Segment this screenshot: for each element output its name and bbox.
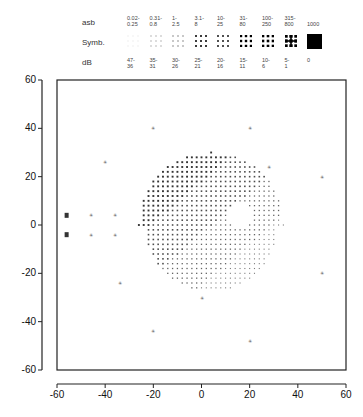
svg-text:✳: ✳: [320, 270, 324, 276]
svg-text:✳: ✳: [320, 174, 324, 180]
y-tick-label: -60: [22, 364, 36, 375]
x-tick-label: 60: [338, 389, 354, 400]
y-tick-label: 20: [25, 171, 36, 182]
x-tick-label: 20: [242, 389, 258, 400]
svg-text:✳: ✳: [248, 125, 252, 131]
x-tick-label: 0: [194, 389, 210, 400]
y-tick-label: -20: [22, 267, 36, 278]
y-tick-label: 60: [25, 74, 36, 85]
svg-text:✳: ✳: [248, 338, 252, 344]
y-tick-label: 0: [30, 219, 36, 230]
svg-text:✳: ✳: [200, 295, 204, 301]
svg-text:✳: ✳: [103, 159, 107, 165]
x-tick-label: 40: [290, 389, 306, 400]
svg-text:✳: ✳: [89, 212, 93, 218]
y-tick-label: -40: [22, 316, 36, 327]
visual-field-plot: ✳✳✳✳✳✳✳✳✳✳✳✳✳✳: [0, 0, 363, 417]
svg-text:✳: ✳: [113, 212, 117, 218]
x-tick-label: -20: [145, 389, 161, 400]
svg-text:✳: ✳: [118, 280, 122, 286]
svg-text:✳: ✳: [151, 328, 155, 334]
svg-text:✳: ✳: [151, 125, 155, 131]
y-tick-label: 40: [25, 122, 36, 133]
x-tick-label: -40: [97, 389, 113, 400]
svg-text:✳: ✳: [267, 164, 271, 170]
svg-text:✳: ✳: [89, 232, 93, 238]
x-tick-label: -60: [49, 389, 65, 400]
svg-text:✳: ✳: [113, 232, 117, 238]
